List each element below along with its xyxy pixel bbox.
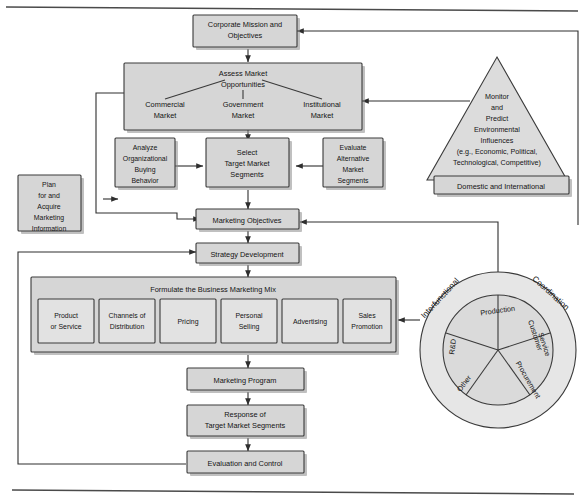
mix-header-label: Formulate the Business Marketing Mix — [150, 285, 276, 294]
triangle-line4: Environmental — [474, 125, 520, 134]
node-marketing-mix-panel[interactable]: Formulate the Business Marketing Mix Pro… — [31, 277, 399, 355]
triangle-line7: Technological, Competitive) — [453, 158, 541, 167]
triangle-line1: Monitor — [485, 92, 510, 101]
mix-item-advertising[interactable]: Advertising — [282, 299, 338, 343]
commercial-market-line2: Market — [154, 111, 177, 120]
analyze-line2: Organizational — [123, 155, 168, 163]
node-strategy-development[interactable]: Strategy Development — [196, 243, 302, 266]
mix-product-line2: or Service — [50, 323, 81, 330]
assess-header-line2: Opportunities — [221, 80, 265, 89]
domestic-international-label: Domestic and International — [457, 182, 545, 191]
node-environment-triangle[interactable]: Monitor and Predict Environmental Influe… — [427, 57, 567, 180]
mix-item-channels[interactable]: Channels of Distribution — [99, 299, 155, 343]
analyze-line3: Buying — [134, 166, 155, 174]
mix-pricing-label: Pricing — [177, 318, 198, 326]
diagram-canvas: Corporate Mission and Objectives Assess … — [0, 0, 587, 503]
node-analyze-buying-behavior[interactable]: Analyze Organizational Buying Behavior — [115, 138, 178, 190]
evaluate-line2: Alternative — [337, 155, 370, 162]
node-domestic-international[interactable]: Domestic and International — [434, 176, 572, 197]
mix-promotion-line1: Sales — [358, 312, 376, 319]
analyze-line1: Analyze — [133, 144, 158, 152]
government-market-line1: Government — [223, 100, 264, 109]
response-line2: Target Market Segments — [205, 421, 286, 430]
mix-selling-line2: Selling — [239, 323, 260, 331]
page-rule-bottom — [12, 490, 574, 494]
mix-channels-line1: Channels of — [109, 312, 146, 319]
evaluate-line4: Segments — [337, 177, 369, 185]
institutional-market-line1: Institutional — [303, 100, 341, 109]
government-market-line2: Market — [232, 111, 255, 120]
mix-channels-line2: Distribution — [110, 323, 145, 330]
evaluation-control-label: Evaluation and Control — [208, 459, 283, 468]
mix-advertising-label: Advertising — [293, 318, 327, 326]
commercial-market-line1: Commercial — [145, 100, 185, 109]
flowchart-svg: Corporate Mission and Objectives Assess … — [0, 0, 587, 503]
select-line1: Select — [237, 148, 258, 157]
marketing-objectives-label: Marketing Objectives — [212, 216, 281, 225]
mix-item-pricing[interactable]: Pricing — [160, 299, 216, 343]
evaluate-line1: Evaluate — [340, 144, 367, 151]
node-corporate-mission[interactable]: Corporate Mission and Objectives — [193, 15, 300, 50]
mix-item-product[interactable]: Product or Service — [38, 299, 94, 343]
analyze-line4: Behavior — [131, 177, 159, 184]
node-evaluate-alternative-segments[interactable]: Evaluate Alternative Market Segments — [323, 138, 386, 190]
node-response-target-segments[interactable]: Response of Target Market Segments — [187, 405, 307, 439]
node-assess-market-panel[interactable]: Assess Market Opportunities Commercial M… — [124, 63, 365, 133]
node-plan-acquire-information[interactable]: Plan for and Acquire Marketing Informati… — [18, 175, 84, 234]
plan-line2: for and — [38, 192, 60, 199]
plan-line3: Acquire — [37, 203, 61, 211]
node-marketing-objectives[interactable]: Marketing Objectives — [196, 209, 302, 232]
triangle-line6: (e.g., Economic, Political, — [457, 147, 538, 156]
mix-product-line1: Product — [54, 312, 78, 319]
corporate-mission-line2: Objectives — [228, 31, 263, 40]
mix-promotion-line2: Promotion — [351, 323, 383, 330]
plan-line1: Plan — [42, 181, 56, 188]
node-marketing-program[interactable]: Marketing Program — [187, 368, 307, 393]
assess-header-line1: Assess Market — [219, 69, 267, 78]
node-evaluation-control[interactable]: Evaluation and Control — [187, 451, 307, 476]
plan-line5: Information — [32, 225, 67, 232]
select-line2: Target Market — [224, 159, 269, 168]
marketing-program-label: Marketing Program — [214, 376, 277, 385]
select-line3: Segments — [230, 170, 264, 179]
strategy-development-label: Strategy Development — [210, 250, 283, 259]
plan-line4: Marketing — [34, 214, 64, 222]
evaluate-line3: Market — [342, 166, 363, 173]
page-rule-top — [6, 7, 578, 11]
mix-item-personal-selling[interactable]: Personal Selling — [221, 299, 277, 343]
corporate-mission-line1: Corporate Mission and — [208, 20, 282, 29]
institutional-market-line2: Market — [311, 111, 334, 120]
node-interfunctional-coordination-wheel[interactable]: Interfunctional Coordination Production … — [419, 272, 576, 428]
triangle-line5: Influences — [481, 136, 514, 145]
triangle-line3: Predict — [486, 114, 508, 123]
response-line1: Response of — [224, 410, 266, 419]
mix-item-sales-promotion[interactable]: Sales Promotion — [343, 299, 391, 343]
node-select-target-segments[interactable]: Select Target Market Segments — [206, 138, 292, 190]
triangle-line2: and — [491, 103, 503, 112]
mix-selling-line1: Personal — [235, 312, 263, 319]
